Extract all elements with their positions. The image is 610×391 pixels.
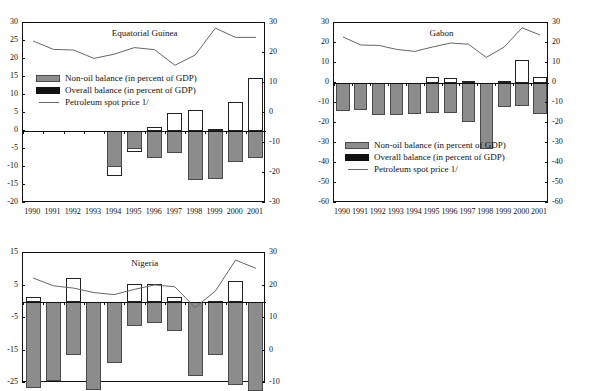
y2-axis-tick-label: -30 — [552, 138, 576, 146]
y2-axis-tick-label: -20 — [552, 118, 576, 126]
y2-axis-tick-mark — [545, 142, 548, 143]
chart-panel-gabon: Gabon3020100-10-20-30-40-50-603020100-10… — [333, 22, 548, 202]
y2-axis-tick-mark — [262, 382, 265, 383]
y2-axis-tick-mark — [545, 62, 548, 63]
y2-axis-tick-label: 20 — [269, 281, 293, 289]
y2-axis-tick-label: 30 — [269, 248, 293, 256]
y2-axis-tick-mark — [545, 162, 548, 163]
legend-swatch-overall — [345, 154, 369, 161]
y2-axis-tick-label: 0 — [269, 108, 293, 116]
y-axis-tick-label: -20 — [309, 118, 329, 126]
y2-axis-tick-label: -10 — [552, 98, 576, 106]
y-axis-tick-mark — [333, 162, 336, 163]
y-axis-tick-mark — [22, 94, 25, 95]
y-axis-tick-mark — [333, 82, 336, 83]
y-axis-tick-mark — [333, 22, 336, 23]
y-axis-tick-mark — [333, 182, 336, 183]
legend-label: Non-oil balance (in percent of GDP) — [374, 139, 506, 151]
y2-axis-tick-label: -40 — [552, 158, 576, 166]
y2-axis-tick-label: 20 — [269, 48, 293, 56]
legend-label: Petroleum spot price 1/ — [65, 96, 149, 108]
y-axis-tick-label: -60 — [309, 198, 329, 206]
y-axis-tick-label: -20 — [0, 198, 18, 206]
y-axis-tick-mark — [333, 42, 336, 43]
plot-area-equatorial-guinea — [22, 22, 265, 202]
y-axis-tick-label: -5 — [0, 313, 18, 321]
y-axis-tick-label: 0 — [309, 78, 329, 86]
y-axis-tick-mark — [333, 122, 336, 123]
y2-axis-tick-mark — [262, 142, 265, 143]
y2-axis-tick-mark — [545, 202, 548, 203]
y-axis-tick-mark — [22, 76, 25, 77]
y2-axis-tick-mark — [262, 82, 265, 83]
y-axis-tick-label: -10 — [0, 162, 18, 170]
y-axis-tick-label: -50 — [309, 178, 329, 186]
x-axis-label-year: 2001 — [242, 207, 268, 216]
legend-label: Overall balance (in percent of GDP) — [374, 151, 505, 163]
y2-axis-tick-label: 10 — [269, 78, 293, 86]
y-axis-tick-mark — [22, 58, 25, 59]
y2-axis-tick-mark — [262, 52, 265, 53]
y2-axis-tick-mark — [545, 22, 548, 23]
y2-axis-tick-mark — [545, 42, 548, 43]
line-petroleum-spot-price — [23, 23, 266, 203]
y-axis-tick-label: -10 — [309, 98, 329, 106]
y-axis-tick-mark — [22, 130, 25, 131]
y2-axis-tick-mark — [262, 285, 265, 286]
legend-swatch-non-oil — [345, 142, 369, 149]
legend-swatch-overall — [36, 87, 60, 94]
y-axis-tick-label: -5 — [0, 144, 18, 152]
plot-area-gabon — [333, 22, 548, 202]
y2-axis-tick-label: 30 — [269, 18, 293, 26]
y-axis-tick-label: 5 — [0, 108, 18, 116]
y2-axis-tick-label: 30 — [552, 18, 576, 26]
y2-axis-tick-mark — [545, 82, 548, 83]
y-axis-tick-mark — [22, 382, 25, 383]
y-axis-tick-label: -15 — [0, 180, 18, 188]
y2-axis-tick-mark — [545, 182, 548, 183]
y2-axis-tick-label: -20 — [269, 168, 293, 176]
chart-panel-nigeria: Nigeria155-5-15-253020100-10 — [22, 252, 265, 382]
y-axis-tick-label: 0 — [0, 126, 18, 134]
y-axis-tick-mark — [22, 202, 25, 203]
y-axis-tick-label: 10 — [309, 58, 329, 66]
y-axis-tick-mark — [22, 184, 25, 185]
y-axis-tick-label: -25 — [0, 378, 18, 386]
panel-title-equatorial-guinea: Equatorial Guinea — [90, 28, 199, 38]
y-axis-tick-mark — [333, 62, 336, 63]
y-axis-tick-label: -40 — [309, 158, 329, 166]
legend-swatch-non-oil — [36, 75, 60, 82]
y2-axis-tick-mark — [262, 202, 265, 203]
y-axis-tick-mark — [22, 350, 25, 351]
y2-axis-tick-label: -10 — [269, 138, 293, 146]
legend-label: Overall balance (in percent of GDP) — [65, 84, 196, 96]
y-axis-tick-mark — [333, 142, 336, 143]
y2-axis-tick-mark — [262, 252, 265, 253]
y-axis-tick-label: 20 — [0, 54, 18, 62]
y2-axis-tick-label: 0 — [269, 346, 293, 354]
y-axis-tick-label: -30 — [309, 138, 329, 146]
y-axis-tick-label: 25 — [0, 36, 18, 44]
y-axis-tick-label: 30 — [309, 18, 329, 26]
y2-axis-tick-mark — [545, 122, 548, 123]
y2-axis-tick-label: -10 — [269, 378, 293, 386]
y2-axis-tick-label: -30 — [269, 198, 293, 206]
y-axis-tick-label: 15 — [0, 72, 18, 80]
y-axis-tick-mark — [22, 148, 25, 149]
panel-title-nigeria: Nigeria — [90, 258, 199, 268]
y-axis-tick-label: 5 — [0, 281, 18, 289]
y2-axis-tick-mark — [545, 102, 548, 103]
legend-label: Petroleum spot price 1/ — [374, 163, 458, 175]
legend-swatch-spot-price — [39, 102, 59, 103]
y2-axis-tick-label: 10 — [552, 58, 576, 66]
y-axis-tick-mark — [22, 317, 25, 318]
y-axis-tick-mark — [22, 166, 25, 167]
y2-axis-tick-label: -50 — [552, 178, 576, 186]
x-axis-label-year: 2001 — [526, 207, 552, 216]
line-petroleum-spot-price — [334, 23, 549, 203]
y-axis-tick-mark — [22, 252, 25, 253]
line-petroleum-spot-price — [23, 253, 266, 383]
y2-axis-tick-label: 0 — [552, 78, 576, 86]
y-axis-tick-label: -15 — [0, 346, 18, 354]
